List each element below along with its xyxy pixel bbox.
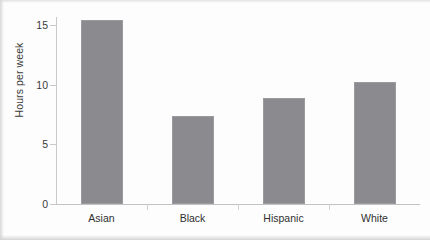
bar-black <box>172 116 214 204</box>
x-category-separator <box>329 204 330 210</box>
y-tick-label-wrap: 5 <box>14 144 48 145</box>
y-tick-label: 10 <box>20 79 48 91</box>
y-tick-mark <box>50 204 56 205</box>
x-category-label-hispanic: Hispanic <box>263 212 303 224</box>
y-tick-label: 5 <box>20 138 48 150</box>
scan-edge-bottom <box>0 235 430 240</box>
y-tick-mark <box>50 25 56 26</box>
x-category-separator <box>147 204 148 210</box>
y-tick-mark <box>50 144 56 145</box>
bar-asian <box>81 20 123 204</box>
bar-chart-figure: Hours per week 051015 AsianBlackHispanic… <box>0 0 430 240</box>
scan-edge-left <box>0 0 4 240</box>
y-tick-label-wrap: 0 <box>14 204 48 205</box>
x-category-label-asian: Asian <box>88 212 114 224</box>
y-axis-line <box>56 17 57 205</box>
bar-white <box>354 82 396 204</box>
x-category-label-black: Black <box>180 212 206 224</box>
x-category-label-white: White <box>361 212 388 224</box>
y-tick-label: 0 <box>20 198 48 210</box>
bar-hispanic <box>263 98 305 204</box>
x-category-separator <box>238 204 239 210</box>
y-tick-label-wrap: 10 <box>14 85 48 86</box>
y-tick-label-wrap: 15 <box>14 25 48 26</box>
y-tick-label: 15 <box>20 19 48 31</box>
scan-edge-top <box>0 0 430 3</box>
y-tick-mark <box>50 85 56 86</box>
